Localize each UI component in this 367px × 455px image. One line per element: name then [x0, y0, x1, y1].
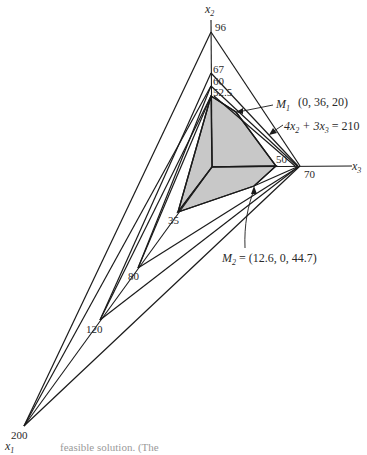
axis-label-x3: x3: [351, 159, 361, 175]
polytope-diagram: 96 67 60 52.5 50 70 35 80 120 200 x2 x3 …: [0, 0, 367, 455]
plane-96-200: [24, 32, 211, 426]
m1-coords: (0, 36, 20): [298, 95, 348, 109]
plane-200-70: [24, 166, 300, 426]
axis-label-x2: x2: [204, 2, 214, 18]
tick-x3-70: 70: [304, 168, 316, 180]
tick-x1-35: 35: [168, 214, 180, 226]
plane-120-52: [100, 96, 211, 320]
tick-x1-120: 120: [86, 323, 103, 335]
tick-x2-96: 96: [215, 21, 227, 33]
tick-x3-50: 50: [276, 153, 288, 165]
tick-x2-67: 67: [213, 63, 225, 75]
tick-x1-200: 200: [11, 429, 28, 441]
tick-x1-80: 80: [128, 270, 140, 282]
constraint-planes: [24, 32, 300, 426]
m2-label: M2 = (12.6, 0, 44.7): [221, 251, 317, 267]
constraint-label: 4x2 + 3x3 = 210: [284, 119, 360, 135]
axis-label-x1: x1: [4, 439, 14, 455]
m1-label: M1: [275, 97, 290, 113]
tick-x2-52-5: 52.5: [213, 86, 233, 98]
m2-arrow-curve: [245, 190, 254, 248]
figure-caption-fragment: feasible solution. (The: [60, 441, 367, 453]
x1-axis: [24, 167, 212, 426]
m1-arrow-line: [238, 105, 273, 112]
